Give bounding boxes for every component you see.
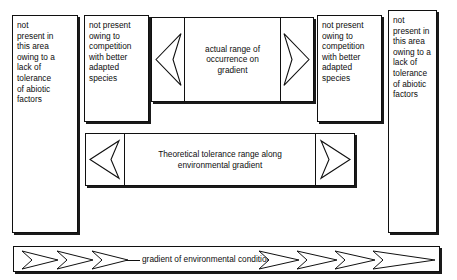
theoretical-left-arrow-cell (86, 134, 124, 185)
arrow-right-icon (281, 18, 313, 101)
chevron-right-icon (20, 250, 60, 270)
actual-range-right-arrow-cell (281, 18, 313, 101)
diagram-canvas: not present in this area owing to a lack… (0, 0, 457, 280)
panel-right-outer-label: not present in this area owing to a lack… (393, 15, 434, 100)
arrow-left-icon (86, 134, 124, 185)
panel-left-inner: not present owing to competition with be… (84, 15, 149, 122)
actual-range-divider-right (280, 18, 281, 101)
panel-left-inner-label: not present owing to competition with be… (89, 20, 146, 84)
arrow-right-icon (371, 250, 437, 270)
theoretical-tolerance-label: Theoretical tolerance range along enviro… (125, 148, 315, 171)
gradient-bar: gradient of environmental conditions (13, 246, 440, 272)
actual-range-left-arrow-cell (152, 18, 184, 101)
gradient-connector-left (126, 260, 140, 261)
theoretical-right-arrow-cell (316, 134, 354, 185)
gradient-arrow-tail (371, 250, 437, 270)
gradient-chevron-left-1 (20, 250, 60, 270)
panel-actual-range-label: actual range of occurrence on gradient (185, 44, 280, 76)
chevron-right-icon (55, 250, 95, 270)
panel-right-outer: not present in this area owing to a lack… (388, 10, 437, 233)
gradient-chevron-left-3 (90, 250, 130, 270)
gradient-chevron-left-2 (55, 250, 95, 270)
arrow-right-icon (316, 134, 354, 185)
panel-left-outer-label: not present in this area owing to a lack… (17, 20, 75, 105)
gradient-bar-label: gradient of environmental conditions (142, 254, 275, 264)
chevron-right-icon (90, 250, 130, 270)
panel-actual-range: actual range of occurrence on gradient (151, 17, 314, 102)
panel-left-outer: not present in this area owing to a lack… (12, 15, 78, 233)
arrow-left-icon (152, 18, 184, 101)
theoretical-divider-right (315, 134, 316, 185)
theoretical-tolerance-bar: Theoretical tolerance range along enviro… (85, 133, 355, 186)
panel-right-inner-label: not present owing to competition with be… (322, 20, 379, 84)
panel-right-inner: not present owing to competition with be… (317, 15, 382, 122)
